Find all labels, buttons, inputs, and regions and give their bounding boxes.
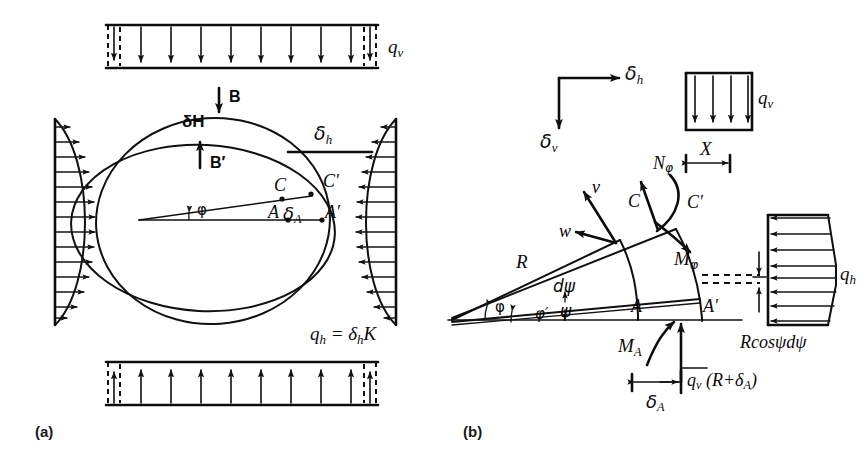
panel-b-point-c-label: C: [628, 192, 640, 210]
panel-a-point-a-label: A: [268, 203, 279, 221]
panel-a-point-c-prime-label: C′: [323, 172, 339, 190]
panel-a-crown-label: B: [229, 89, 241, 105]
panel-b-wedge: [448, 229, 742, 325]
panel-b-dashed-tie: [702, 275, 760, 283]
panel-b-point-a-label: A: [631, 297, 642, 315]
panel-b-angle-psi-label: ψ: [560, 303, 571, 320]
panel-a-qv-top-label: qv: [388, 37, 403, 60]
panel-b-point-a-prime-label: A′: [703, 297, 718, 315]
panel-b-caption-label: (b): [463, 424, 482, 439]
panel-a-point-c-label: C: [274, 176, 286, 194]
panel-b-radius-label: R: [516, 252, 528, 271]
panel-b-qv-label: qv: [758, 88, 773, 111]
panel-b-right-pressure: [768, 215, 836, 325]
panel-b-nphi-label: Nφ: [653, 154, 673, 175]
panel-b-arc-length-label: Rcosψdψ: [740, 333, 806, 351]
figure-drawing: [0, 0, 863, 463]
panel-b-displacement-w-label: w: [559, 222, 571, 240]
panel-b-nphi-arrow: [641, 175, 678, 231]
panel-a-radial-deflection-label: δA: [283, 205, 302, 226]
panel-a-top-load-arrows: [114, 27, 370, 62]
panel-b-mphi-label: Mφ: [674, 249, 698, 272]
panel-a-caption-label: (a): [35, 424, 53, 439]
panel-b-delta-h-legend: δh: [625, 64, 643, 87]
panel-b-angle-dpsi-label: dψ: [553, 278, 575, 295]
panel-a-point-a-prime-label: A′: [325, 203, 340, 221]
panel-a-delta-h-label: δh: [314, 124, 332, 147]
panel-b-bottom-reaction-label: qv (R+δA): [687, 371, 757, 392]
panel-a-invert-label: B′: [210, 155, 225, 171]
panel-b-angle-phi-prime-label: φ′: [535, 307, 548, 322]
panel-b-delta-a-dimension-label: δA: [646, 393, 665, 414]
panel-a-crown-deflection-label: δH: [182, 113, 205, 130]
panel-b-angle-phi-label: φ: [495, 300, 505, 315]
panel-b-displacement-arrows: [576, 192, 616, 243]
panel-a-bottom-load-box: [106, 362, 378, 405]
panel-a-right-pressure: [356, 119, 396, 325]
panel-a-top-load-box: [106, 25, 378, 68]
panel-a-bottom-load-arrows: [114, 370, 370, 403]
panel-b-ma-arrow: [647, 322, 674, 365]
panel-a-group: [55, 25, 396, 405]
panel-b-qh-label: qh: [840, 264, 856, 287]
figure-root: qv B δH B′ δh C C′ A δA A′ φ qh = δhK (a…: [0, 0, 863, 463]
panel-b-delta-v-legend: δv: [540, 132, 557, 155]
panel-b-axes-legend: [559, 78, 619, 128]
panel-a-qh-equation: qh = δhK: [310, 324, 376, 347]
panel-b-point-c-prime-label: C′: [687, 193, 703, 211]
panel-b-x-dimension-label: X: [700, 139, 712, 158]
panel-a-angle-phi-label: φ: [197, 203, 207, 218]
panel-b-load-box: [686, 73, 752, 130]
panel-b-displacement-v-label: v: [592, 178, 600, 196]
panel-a-left-pressure: [55, 119, 95, 325]
panel-b-ma-label: MA: [618, 336, 642, 359]
